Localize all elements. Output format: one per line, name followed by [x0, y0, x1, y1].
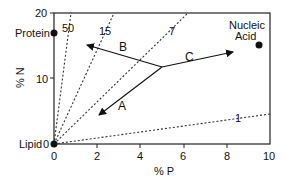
x-tick-0: 0 [51, 150, 57, 162]
vector-c [162, 52, 233, 67]
vector-label-a: A [118, 99, 126, 113]
x-tick-8: 8 [224, 150, 230, 162]
label-lipid: Lipid [19, 138, 42, 150]
point-nucleic-acid [256, 42, 263, 49]
y-tick-0: 0 [43, 138, 49, 150]
x-tick-10: 10 [263, 150, 275, 162]
x-axis-label: % P [154, 165, 174, 177]
label-nucleic-line2: Acid [235, 30, 256, 42]
vector-label-b: B [119, 40, 127, 54]
x-tick-4: 4 [137, 150, 143, 162]
vector-a [99, 67, 162, 115]
x-tick-6: 6 [180, 150, 186, 162]
ratio-label-1: 1 [235, 112, 241, 124]
label-protein: Protein [15, 27, 50, 39]
ratio-label-50: 50 [62, 22, 74, 34]
y-axis-label: % N [14, 67, 26, 88]
point-protein [51, 30, 58, 37]
y-tick-10: 10 [36, 73, 48, 85]
chart: 50 15 7 1 A B C Protein Nucleic Acid Lip… [0, 0, 285, 183]
x-tick-2: 2 [94, 150, 100, 162]
point-lipid [51, 141, 58, 148]
y-tick-20: 20 [35, 7, 47, 19]
vectors [87, 45, 233, 115]
ratio-label-15: 15 [99, 25, 111, 37]
vector-label-c: C [185, 50, 194, 64]
ratio-label-7: 7 [169, 25, 175, 37]
